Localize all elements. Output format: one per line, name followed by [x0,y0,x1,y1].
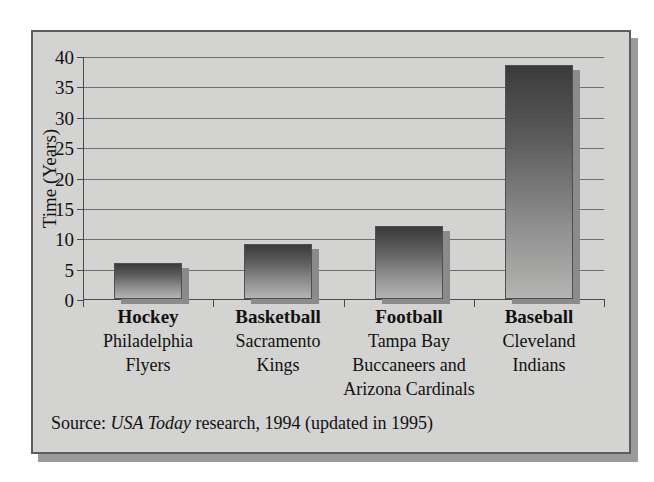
category-team-name: Arizona Cardinals [338,377,480,401]
y-tick-label: 35 [55,78,74,97]
y-tick-mark [77,87,84,88]
category-label-football: FootballTampa BayBuccaneers andArizona C… [338,304,480,401]
y-tick-label: 20 [55,169,74,188]
y-tick-mark [77,57,84,58]
source-publication: USA Today [110,413,191,433]
category-sport-name: Football [338,304,480,329]
gridline [83,57,604,58]
category-team-name: Flyers [77,353,219,377]
category-team-name: Tampa Bay [338,329,480,353]
category-team-name: Sacramento [207,329,349,353]
y-tick-label: 40 [55,48,74,67]
bar-body [244,244,312,299]
y-tick-mark [77,209,84,210]
bar-body [505,65,573,299]
category-team-name: Buccaneers and [338,353,480,377]
category-label-hockey: HockeyPhiladelphiaFlyers [77,304,219,377]
x-axis-category-labels: HockeyPhiladelphiaFlyersBasketballSacram… [83,304,604,404]
source-prefix: Source: [51,413,106,433]
category-team-name: Kings [207,353,349,377]
source-suffix: research, 1994 (updated in 1995) [196,413,433,433]
y-tick-mark [77,118,84,119]
y-tick-label: 30 [55,108,74,127]
y-tick-mark [77,179,84,180]
category-team-name: Philadelphia [77,329,219,353]
category-sport-name: Basketball [207,304,349,329]
bar-body [114,263,182,299]
bar [375,226,443,299]
y-tick-label: 15 [55,199,74,218]
source-note: Source: USA Today research, 1994 (update… [51,413,433,434]
y-tick-mark [77,148,84,149]
category-label-basketball: BasketballSacramentoKings [207,304,349,377]
chart-panel: Time (Years) 0510152025303540 HockeyPhil… [31,30,631,454]
y-tick-label: 10 [55,230,74,249]
y-tick-label: 5 [65,260,75,279]
category-sport-name: Baseball [468,304,610,329]
bar [114,263,182,299]
category-sport-name: Hockey [77,304,219,329]
y-tick-mark [77,239,84,240]
figure-root: Time (Years) 0510152025303540 HockeyPhil… [0,0,654,482]
y-tick-mark [77,270,84,271]
plot-area: 0510152025303540 [83,57,604,300]
bar [244,244,312,299]
y-tick-label: 25 [55,139,74,158]
category-team-name: Cleveland [468,329,610,353]
bar [505,65,573,299]
y-tick-label: 0 [65,291,75,310]
bar-body [375,226,443,299]
category-team-name: Indians [468,353,610,377]
category-label-baseball: BaseballClevelandIndians [468,304,610,377]
